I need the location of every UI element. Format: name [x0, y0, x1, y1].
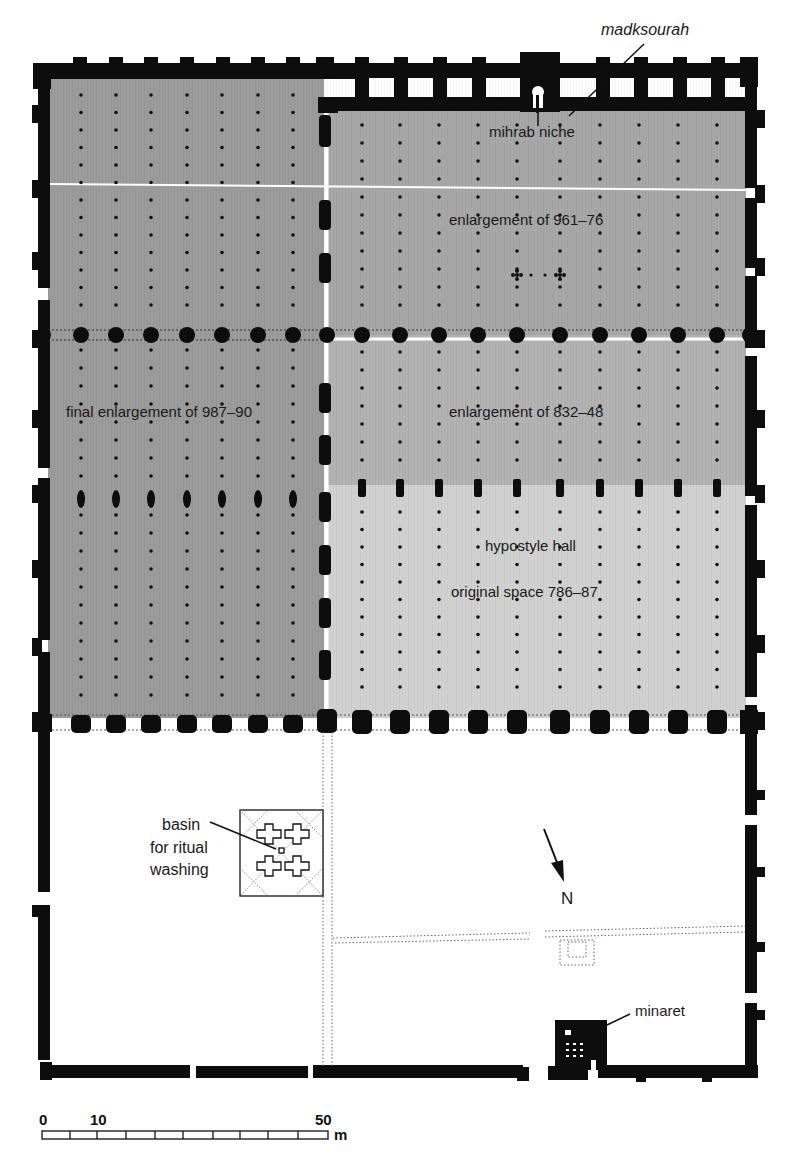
label-mihrab-niche: mihrab niche — [489, 124, 575, 139]
scale-tick-0: 0 — [39, 1112, 47, 1127]
scale-tick-10: 10 — [90, 1112, 107, 1127]
label-final-enlargement: final enlargement of 987–90 — [66, 404, 252, 419]
mosque-floor-plan — [0, 0, 800, 1156]
scale-bar — [42, 1131, 328, 1139]
scale-tick-50: 50 — [315, 1112, 332, 1127]
label-basin-for-ritual: for ritual — [150, 840, 208, 856]
label-basin-washing: washing — [150, 862, 209, 878]
label-minaret: minaret — [635, 1003, 685, 1018]
label-north: N — [561, 890, 573, 907]
north-arrow-icon — [544, 829, 564, 882]
label-enlargement-832: enlargement of 832–48 — [449, 404, 603, 419]
label-madksourah: madksourah — [601, 22, 689, 38]
basin-for-ritual-washing — [240, 810, 323, 896]
label-original-space: original space 786–87 — [451, 584, 598, 599]
scale-unit: m — [334, 1127, 347, 1142]
label-enlargement-961: enlargement of 961–76 — [449, 212, 603, 227]
label-hypostyle-hall: hypostyle hall — [485, 538, 576, 553]
label-basin: basin — [162, 817, 200, 833]
